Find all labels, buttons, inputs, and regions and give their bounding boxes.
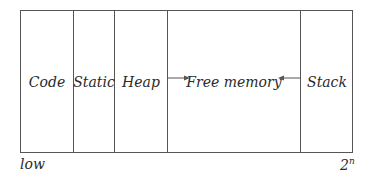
arrow-heap-to-free-icon — [168, 76, 190, 81]
axis-low-label: low — [20, 156, 45, 172]
axis-high-exponent: n — [349, 156, 355, 166]
arrows-layer — [0, 0, 369, 179]
axis-high-label: 2n — [340, 156, 355, 173]
axis-high-base: 2 — [340, 157, 349, 173]
arrow-stack-to-free-icon — [278, 76, 300, 81]
